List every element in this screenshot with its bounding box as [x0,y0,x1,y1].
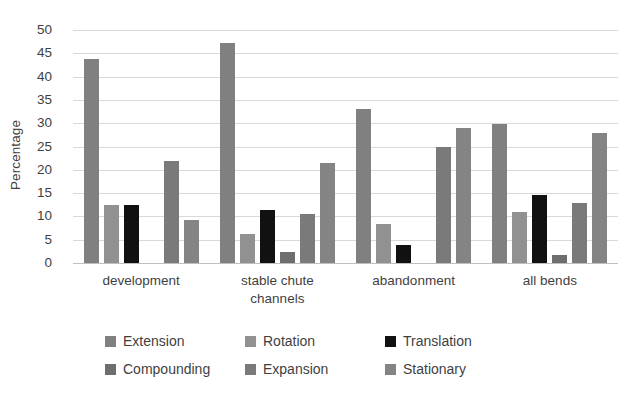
bar-group [482,30,618,263]
bar-slot [84,30,99,263]
bar-slot [376,30,391,263]
bar-rotation[interactable] [240,234,255,263]
y-axis-tick-label: 50 [12,23,52,37]
legend-label: Rotation [263,333,315,349]
category-label-line: development [73,272,209,290]
bar-translation[interactable] [532,195,547,263]
legend-item-compounding[interactable]: Compounding [105,361,245,377]
legend-item-rotation[interactable]: Rotation [245,333,385,349]
category-label-line: stable chute [209,272,345,290]
bar-expansion[interactable] [164,161,179,263]
category-label-line: abandonment [346,272,482,290]
bar-stationary[interactable] [456,128,471,263]
bar-expansion[interactable] [300,214,315,263]
legend-swatch-icon [385,336,396,347]
legend-label: Expansion [263,361,328,377]
legend-item-expansion[interactable]: Expansion [245,361,385,377]
bar-rotation[interactable] [104,205,119,263]
y-axis-tick-label: 10 [12,210,52,224]
legend-swatch-icon [245,364,256,375]
x-axis-category-labels: developmentstable chutechannelsabandonme… [73,272,618,308]
bar-slot [416,30,431,263]
bar-slot [532,30,547,263]
category-label-line: channels [209,290,345,308]
bar-slot [436,30,451,263]
bar-slot [552,30,567,263]
bar-expansion[interactable] [436,147,451,263]
bar-extension[interactable] [220,43,235,263]
bar-slot [144,30,159,263]
legend-label: Translation [403,333,472,349]
bar-compounding[interactable] [552,255,567,263]
bar-extension[interactable] [84,59,99,263]
bar-stationary[interactable] [592,133,607,263]
bar-stationary[interactable] [184,220,199,263]
legend-item-translation[interactable]: Translation [385,333,525,349]
y-axis-tick-label: 40 [12,70,52,84]
bar-slot [220,30,235,263]
legend-swatch-icon [385,364,396,375]
x-axis-category-label: abandonment [346,272,482,308]
x-axis-category-label: development [73,272,209,308]
bar-slot [512,30,527,263]
y-axis-tick-label: 35 [12,93,52,107]
chart-legend: ExtensionRotationTranslationCompoundingE… [105,333,525,389]
legend-swatch-icon [105,336,116,347]
bar-translation[interactable] [124,205,139,263]
legend-swatch-icon [105,364,116,375]
x-axis-category-label: stable chutechannels [209,272,345,308]
bar-stationary[interactable] [320,163,335,263]
bar-expansion[interactable] [572,203,587,263]
bar-slot [456,30,471,263]
y-axis-tick-label: 45 [12,47,52,61]
bar-slot [492,30,507,263]
legend-item-extension[interactable]: Extension [105,333,245,349]
bar-slot [240,30,255,263]
plot-area: 05101520253035404550 [73,30,618,263]
y-axis-tick-label: 0 [12,256,52,270]
y-axis-tick-label: 25 [12,140,52,154]
bar-slot [184,30,199,263]
bar-translation[interactable] [396,245,411,263]
bar-translation[interactable] [260,210,275,263]
bar-slot [260,30,275,263]
bar-slot [396,30,411,263]
bar-chart: Percentage 05101520253035404550 developm… [0,0,630,410]
y-axis-tick-label: 20 [12,163,52,177]
category-label-line: all bends [482,272,618,290]
bar-groups [73,30,618,263]
legend-label: Compounding [123,361,210,377]
gridline [73,263,618,264]
legend-swatch-icon [245,336,256,347]
bar-group [73,30,209,263]
x-axis-category-label: all bends [482,272,618,308]
legend-item-stationary[interactable]: Stationary [385,361,525,377]
bar-slot [356,30,371,263]
bar-compounding[interactable] [280,252,295,263]
bar-slot [280,30,295,263]
bar-slot [572,30,587,263]
bar-slot [124,30,139,263]
y-axis-tick-label: 30 [12,116,52,130]
legend-label: Extension [123,333,184,349]
legend-label: Stationary [403,361,466,377]
bar-slot [300,30,315,263]
y-axis-tick-label: 5 [12,233,52,247]
bar-group [209,30,345,263]
bar-rotation[interactable] [512,212,527,263]
bar-slot [104,30,119,263]
bar-slot [592,30,607,263]
bar-rotation[interactable] [376,224,391,263]
bar-extension[interactable] [492,124,507,263]
bar-slot [164,30,179,263]
bar-group [346,30,482,263]
bar-slot [320,30,335,263]
y-axis-tick-label: 15 [12,186,52,200]
bar-extension[interactable] [356,109,371,263]
